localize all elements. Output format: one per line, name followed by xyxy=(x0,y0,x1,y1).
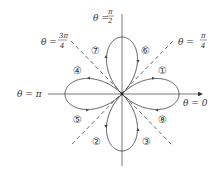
svg-text:3π: 3π xyxy=(59,32,68,40)
svg-text:θ =: θ = xyxy=(41,37,57,47)
arrow-icon xyxy=(136,128,139,131)
arrow-icon xyxy=(87,76,90,79)
region-label-1: ① xyxy=(158,65,167,76)
arrow-icon xyxy=(86,108,89,111)
region-label-4: ④ xyxy=(73,65,82,76)
label-theta-pi-over-2: θ = π 2 xyxy=(93,8,114,25)
arrow-icon xyxy=(104,125,107,128)
origin-point xyxy=(121,93,124,96)
region-label-7: ⑦ xyxy=(91,45,100,56)
svg-text:π: π xyxy=(200,32,206,40)
label-theta-3pi-over-4: θ = 3π 4 xyxy=(41,32,68,50)
region-label-6: ⑥ xyxy=(141,45,150,56)
svg-text:θ = π: θ = π xyxy=(17,89,43,99)
svg-text:π: π xyxy=(107,8,113,16)
arrow-icon xyxy=(155,108,158,111)
svg-text:2: 2 xyxy=(107,17,113,25)
svg-text:θ = 0: θ = 0 xyxy=(183,98,208,108)
label-theta-pi: θ = π xyxy=(17,89,43,99)
label-theta-pi-over-4: θ = π 4 xyxy=(178,32,207,50)
region-label-8: ⑧ xyxy=(158,114,167,125)
region-label-2: ② xyxy=(92,136,101,147)
label-theta-0: θ = 0 xyxy=(183,98,208,108)
rose-diagram: θ = 0 θ = π θ = π 2 θ = π 4 θ = 3π 4 ① ②… xyxy=(0,0,217,176)
arrow-icon xyxy=(152,76,155,79)
svg-text:4: 4 xyxy=(200,42,205,50)
region-label-3: ③ xyxy=(142,136,151,147)
svg-text:θ =: θ = xyxy=(93,13,109,23)
svg-text:4: 4 xyxy=(59,42,64,50)
region-label-5: ⑤ xyxy=(73,114,82,125)
svg-text:θ =: θ = xyxy=(178,37,194,47)
arrow-icon xyxy=(136,60,139,63)
dashed-line-pi-over-4 xyxy=(72,41,173,144)
